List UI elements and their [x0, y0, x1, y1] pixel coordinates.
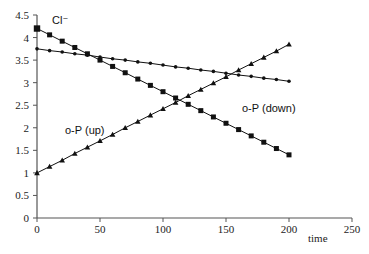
square-marker — [186, 102, 191, 107]
square-marker — [148, 83, 153, 88]
dot-marker — [249, 75, 253, 79]
square-marker — [34, 25, 40, 31]
square-marker — [211, 114, 216, 119]
y-tick-label: 3.5 — [15, 54, 29, 66]
dot-marker — [73, 52, 77, 56]
x-tick-label: 100 — [155, 223, 172, 235]
square-marker — [287, 152, 292, 157]
dot-marker — [123, 58, 127, 62]
square-marker — [224, 121, 229, 126]
axes: 00.511.522.533.544.5050100150200250 — [15, 9, 361, 235]
annotation-cl: Cl⁻ — [52, 14, 68, 26]
square-marker — [249, 133, 254, 138]
y-tick-label: 4.5 — [15, 9, 29, 21]
dot-marker — [35, 47, 39, 51]
dot-marker — [287, 80, 291, 84]
square-marker — [261, 140, 266, 145]
dot-marker — [199, 68, 203, 72]
triangle-marker — [148, 112, 154, 117]
dot-marker — [237, 73, 241, 77]
square-marker — [198, 108, 203, 113]
triangle-marker — [236, 67, 242, 72]
x-tick-label: 150 — [218, 223, 235, 235]
triangle-marker — [72, 151, 78, 156]
triangle-marker — [59, 157, 65, 162]
y-tick-label: 4 — [24, 32, 30, 44]
dot-marker — [48, 49, 52, 53]
dot-marker — [161, 63, 165, 67]
y-tick-label: 1.5 — [15, 144, 29, 156]
x-tick-label: 50 — [95, 223, 107, 235]
square-marker — [236, 127, 241, 132]
triangle-marker — [286, 42, 292, 47]
dot-marker — [262, 76, 266, 80]
triangle-marker — [198, 87, 204, 92]
triangle-marker — [47, 164, 53, 169]
square-marker — [161, 89, 166, 94]
dot-marker — [98, 55, 102, 59]
square-marker — [123, 70, 128, 75]
dot-marker — [86, 53, 90, 57]
dot-marker — [111, 57, 115, 61]
x-axis-title: time — [308, 232, 328, 244]
triangle-marker — [274, 48, 280, 53]
square-marker — [274, 146, 279, 151]
triangle-marker — [97, 138, 103, 143]
square-marker — [47, 32, 52, 37]
square-marker — [110, 64, 115, 69]
triangle-marker — [135, 119, 141, 124]
line-chart: 00.511.522.533.544.5050100150200250 Cl⁻ … — [0, 0, 369, 254]
square-marker — [72, 45, 77, 50]
dot-marker — [60, 50, 64, 54]
y-tick-label: 0 — [24, 212, 30, 224]
x-tick-label: 200 — [281, 223, 298, 235]
dot-marker — [174, 65, 178, 69]
y-tick-label: 1 — [24, 167, 30, 179]
square-marker — [135, 77, 140, 82]
triangle-marker — [85, 144, 91, 149]
triangle-marker — [110, 132, 116, 137]
x-tick-label: 0 — [34, 223, 40, 235]
annotation-op-down: o-P (down) — [242, 102, 296, 114]
triangle-marker — [248, 61, 254, 66]
y-tick-label: 3 — [24, 77, 30, 89]
annotation-op-up: o-P (up) — [65, 124, 105, 136]
series-cl — [34, 25, 292, 157]
triangle-marker — [211, 80, 217, 85]
y-tick-label: 2 — [24, 122, 30, 134]
x-tick-label: 250 — [344, 223, 361, 235]
triangle-marker — [122, 125, 128, 130]
dot-marker — [212, 70, 216, 74]
dot-marker — [149, 61, 153, 65]
series-group — [34, 25, 292, 175]
triangle-marker — [160, 106, 166, 111]
square-marker — [60, 39, 65, 44]
dot-marker — [275, 78, 279, 82]
y-tick-label: 0.5 — [15, 189, 29, 201]
dot-marker — [136, 60, 140, 64]
triangle-marker — [261, 55, 267, 60]
y-tick-label: 2.5 — [15, 99, 29, 111]
dot-marker — [186, 66, 190, 70]
triangle-marker — [223, 74, 229, 79]
triangle-marker — [185, 93, 191, 98]
